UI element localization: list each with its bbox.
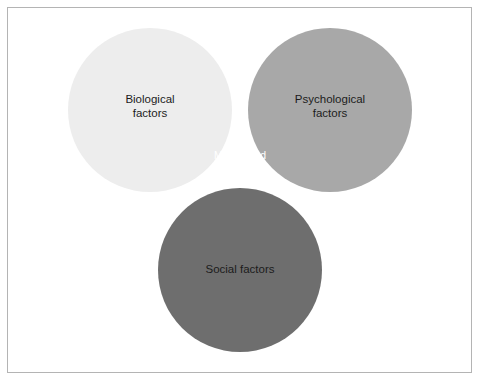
venn-diagram-canvas	[0, 0, 479, 380]
venn-circle-biological	[68, 28, 232, 192]
venn-circle-social	[158, 188, 322, 352]
venn-circle-psychological	[248, 28, 412, 192]
venn-diagram-figure: Biological factors Psychological factors…	[0, 0, 479, 380]
